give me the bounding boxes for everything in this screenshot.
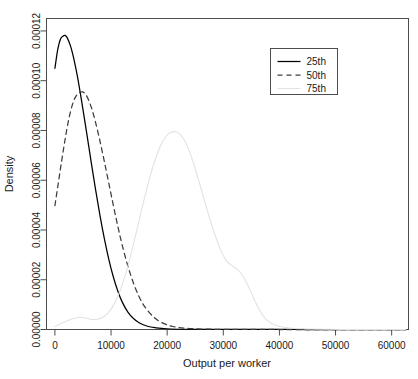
y-tick-label: 0.00006 <box>31 162 42 199</box>
x-tick-label: 50000 <box>322 340 350 351</box>
x-axis-title: Output per worker <box>183 357 271 369</box>
y-tick-label: 0.00004 <box>31 211 42 248</box>
y-tick-label: 0.00010 <box>31 62 42 99</box>
x-tick-label: 20000 <box>153 340 181 351</box>
y-axis-title: Density <box>3 155 15 192</box>
x-tick-label: 40000 <box>266 340 294 351</box>
legend-label-25th[interactable]: 25th <box>307 56 326 67</box>
figure-background <box>0 0 418 379</box>
x-tick-label: 30000 <box>209 340 237 351</box>
chart-legend[interactable]: 25th50th75th <box>271 49 338 95</box>
x-tick-label: 60000 <box>378 340 406 351</box>
x-tick-label: 0 <box>52 340 58 351</box>
y-tick-label: 0.00012 <box>31 12 42 49</box>
legend-label-75th[interactable]: 75th <box>307 83 326 94</box>
y-tick-label: 0.00000 <box>31 311 42 348</box>
x-tick-label: 10000 <box>97 340 125 351</box>
chart-canvas: 01000020000300004000050000600000.000000.… <box>0 0 418 379</box>
legend-label-50th[interactable]: 50th <box>307 70 326 81</box>
y-tick-label: 0.00008 <box>31 112 42 149</box>
density-plot-figure: 01000020000300004000050000600000.000000.… <box>0 0 418 379</box>
legend-box <box>271 49 338 95</box>
y-tick-label: 0.00002 <box>31 261 42 298</box>
